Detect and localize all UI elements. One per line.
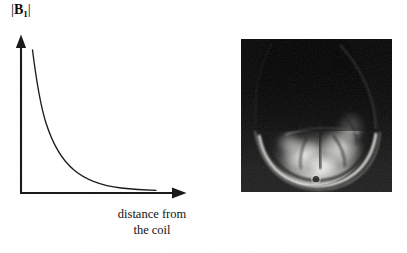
y-axis-arrowhead-icon: [16, 35, 26, 49]
b1-decay-curve: [33, 50, 157, 190]
mri-rendering: [241, 39, 392, 192]
x-axis-caption: distance from the coil: [86, 207, 218, 238]
x-axis-arrowhead-icon: [172, 188, 187, 199]
x-axis-caption-line-2: the coil: [86, 223, 218, 239]
surface-coil-mri-image: [241, 39, 392, 192]
b1-decay-plot: |B1| distance from the coil: [0, 0, 215, 253]
figure-root: |B1| distance from the coil: [0, 0, 407, 253]
mri-noise-overlay: [241, 39, 392, 192]
x-axis-caption-line-1: distance from: [86, 207, 218, 223]
